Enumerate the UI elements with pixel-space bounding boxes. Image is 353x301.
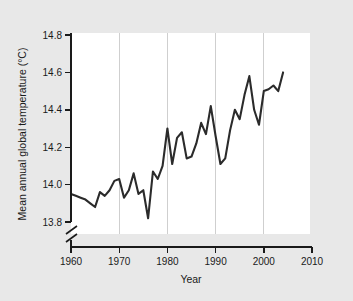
figure-container: 13.814.014.214.414.614.8 196019701980199…: [0, 0, 353, 301]
y-axis-title: Mean annual global temperature (°C): [16, 48, 28, 221]
x-tick-label-1960: 1960: [60, 256, 83, 267]
y-tick-label-14.0: 14.0: [43, 179, 63, 190]
x-tick-label-1990: 1990: [204, 256, 227, 267]
y-tick-label-14.4: 14.4: [43, 104, 63, 115]
x-tick-label-2010: 2010: [301, 256, 324, 267]
y-tick-label-14.2: 14.2: [43, 142, 63, 153]
y-tick-label-14.6: 14.6: [43, 67, 63, 78]
temperature-line-chart: 13.814.014.214.414.614.8 196019701980199…: [0, 0, 353, 301]
x-tick-label-2000: 2000: [253, 256, 276, 267]
y-tick-label-13.8: 13.8: [43, 217, 63, 228]
plot-area-background: [71, 33, 310, 234]
x-axis-title: Year: [180, 273, 202, 285]
x-tick-label-1970: 1970: [108, 256, 131, 267]
chart-canvas: 13.814.014.214.414.614.8 196019701980199…: [0, 0, 353, 301]
x-tick-label-1980: 1980: [156, 256, 179, 267]
y-tick-label-14.8: 14.8: [43, 30, 63, 41]
